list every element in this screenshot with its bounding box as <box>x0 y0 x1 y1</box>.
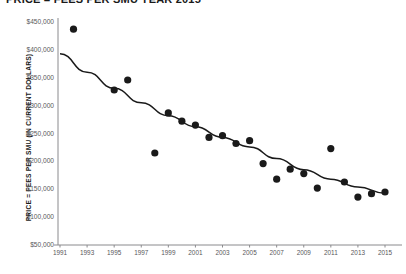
chart-container: PRICE = FEES PER SMU YEAR 2015 PRICE = F… <box>0 0 406 274</box>
scatter-point <box>246 137 253 144</box>
scatter-point <box>300 170 307 177</box>
scatter-point <box>341 178 348 185</box>
scatter-point <box>368 190 375 197</box>
scatter-point <box>205 134 212 141</box>
trend-line <box>60 54 385 193</box>
scatter-point <box>111 86 118 93</box>
chart-plot-area <box>0 0 406 274</box>
scatter-point <box>124 76 131 83</box>
scatter-point <box>273 176 280 183</box>
scatter-points <box>70 26 389 201</box>
scatter-point <box>151 149 158 156</box>
scatter-point <box>178 118 185 125</box>
scatter-point <box>327 145 334 152</box>
scatter-point <box>192 122 199 129</box>
scatter-point <box>314 185 321 192</box>
scatter-point <box>232 140 239 147</box>
scatter-point <box>260 160 267 167</box>
scatter-point <box>354 194 361 201</box>
scatter-point <box>70 26 77 33</box>
scatter-point <box>219 132 226 139</box>
scatter-point <box>287 166 294 173</box>
scatter-point <box>165 109 172 116</box>
chart-axes <box>54 18 402 248</box>
scatter-point <box>381 188 388 195</box>
